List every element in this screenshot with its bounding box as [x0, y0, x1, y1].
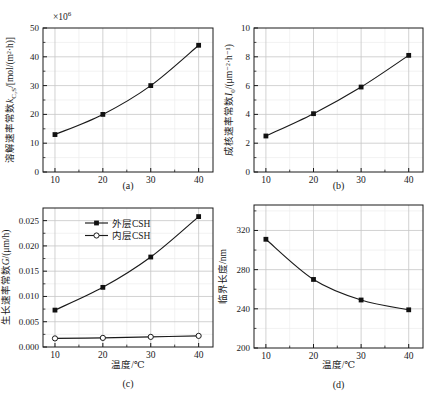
text-segment: (d) — [333, 379, 345, 391]
axis-scale-label: ×106 — [53, 10, 72, 22]
data-point-marker — [311, 111, 316, 116]
text-segment: /(μm⁻²·h⁻¹) — [224, 44, 235, 89]
y-tick-label: 280 — [237, 265, 251, 275]
x-tick-label: 30 — [356, 175, 366, 185]
y-tick-label: 4 — [246, 109, 251, 119]
text-segment: 20 — [309, 351, 319, 361]
x-tick-label: 40 — [404, 351, 414, 361]
subplot-caption: (c) — [122, 378, 133, 390]
data-point-marker — [196, 43, 201, 48]
data-point-marker — [100, 335, 105, 340]
text-segment: ×10 — [53, 12, 68, 22]
text-segment: 0 — [35, 167, 40, 177]
text-segment: 6 — [68, 10, 72, 18]
text-segment: 0 — [246, 167, 251, 177]
text-segment: 40 — [194, 175, 204, 185]
text-segment: 30 — [146, 350, 156, 360]
y-axis-label: 生长速率常数G/(μm/h) — [0, 230, 12, 326]
data-point-marker — [311, 277, 316, 282]
x-tick-label: 10 — [50, 350, 60, 360]
text-segment: 8 — [246, 52, 251, 62]
text-segment: 0.015 — [19, 266, 40, 276]
x-tick-label: 20 — [309, 351, 319, 361]
y-tick-label: 10 — [241, 23, 251, 33]
text-segment: 2 — [246, 138, 251, 148]
data-point-marker — [100, 112, 105, 117]
plot-frame — [254, 205, 423, 348]
x-tick-label: 10 — [261, 175, 271, 185]
text-segment: /[mol/(m²·h)] — [5, 37, 16, 88]
x-tick-label: 20 — [98, 175, 108, 185]
x-tick-label: 10 — [50, 175, 60, 185]
text-segment: 30 — [356, 351, 366, 361]
text-segment: 0.025 — [19, 216, 40, 226]
text-segment: 40 — [404, 175, 414, 185]
data-point-marker — [53, 132, 58, 137]
text-segment: 280 — [237, 265, 251, 275]
text-segment: 320 — [237, 225, 251, 235]
text-segment: 临界长度/nm — [217, 249, 228, 304]
x-tick-label: 30 — [356, 351, 366, 361]
plot-frame — [43, 208, 213, 347]
text-segment: 0.005 — [19, 317, 40, 327]
four-panel-figure: 1020304001020304050溶解速率常数kC₃S/[mol/(m²·h… — [0, 0, 434, 401]
y-axis-label: 临界长度/nm — [217, 249, 228, 304]
x-tick-label: 30 — [146, 350, 156, 360]
data-point-marker — [196, 214, 201, 219]
text-segment: 40 — [194, 350, 204, 360]
subplot-caption: (b) — [333, 180, 345, 192]
data-point-marker — [359, 298, 364, 303]
text-segment: 成核速率常数 — [223, 96, 234, 156]
text-segment: 生长速率常数 — [0, 265, 11, 325]
subplot-c: 102030400.0000.0050.0100.0150.0200.025生长… — [0, 195, 217, 401]
data-point-marker — [148, 334, 153, 339]
text-segment: 30 — [146, 175, 156, 185]
x-tick-label: 40 — [194, 350, 204, 360]
y-tick-label: 0 — [35, 167, 40, 177]
subplot-a: 1020304001020304050溶解速率常数kC₃S/[mol/(m²·h… — [0, 0, 217, 195]
text-segment: 240 — [237, 304, 251, 314]
subplot-caption: (d) — [333, 379, 345, 391]
text-segment: 10 — [241, 23, 251, 33]
data-point-marker — [52, 336, 57, 341]
text-segment: 内层CSH — [112, 230, 151, 241]
y-tick-label: 50 — [30, 23, 40, 33]
data-point-marker — [406, 307, 411, 312]
subplot-d: 10203040200240280320临界长度/nm温度/℃(d) — [217, 195, 434, 401]
data-point-marker — [196, 333, 201, 338]
x-tick-label: 30 — [146, 175, 156, 185]
text-segment: 外层CSH — [112, 218, 151, 229]
data-point-marker — [406, 53, 411, 58]
x-axis-label: 温度/℃ — [322, 359, 356, 370]
legend-label: 内层CSH — [112, 230, 151, 241]
text-segment: (b) — [333, 180, 345, 192]
y-tick-label: 8 — [246, 52, 251, 62]
x-tick-label: 20 — [98, 350, 108, 360]
text-segment: 0.010 — [19, 291, 40, 301]
y-tick-label: 0.020 — [19, 241, 40, 251]
data-point-marker — [94, 233, 99, 238]
x-tick-label: 20 — [309, 175, 319, 185]
x-axis-label: 温度/℃ — [111, 359, 145, 370]
text-segment: 0.020 — [19, 241, 40, 251]
y-tick-label: 0.015 — [19, 266, 40, 276]
text-segment: 10 — [30, 138, 40, 148]
data-point-marker — [148, 255, 153, 260]
data-point-marker — [53, 308, 58, 313]
y-tick-label: 0.000 — [19, 342, 40, 352]
text-segment: 20 — [30, 109, 40, 119]
text-segment: 4 — [246, 109, 251, 119]
text-segment: 30 — [356, 175, 366, 185]
y-tick-label: 2 — [246, 138, 251, 148]
y-axis-label: 成核速率常数I0/(μm⁻²·h⁻¹) — [223, 44, 237, 156]
text-segment: 20 — [309, 175, 319, 185]
text-segment: 40 — [404, 351, 414, 361]
text-segment: (c) — [122, 378, 133, 390]
subplot-b: 102030400246810成核速率常数I0/(μm⁻²·h⁻¹)(b) — [217, 0, 434, 195]
data-point-marker — [148, 83, 153, 88]
text-segment: 10 — [261, 175, 271, 185]
y-tick-label: 320 — [237, 225, 251, 235]
x-tick-label: 10 — [261, 351, 271, 361]
y-tick-label: 10 — [30, 138, 40, 148]
text-segment: C₃S — [10, 88, 18, 99]
